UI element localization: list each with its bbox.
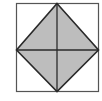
diagram: [0, 0, 102, 101]
